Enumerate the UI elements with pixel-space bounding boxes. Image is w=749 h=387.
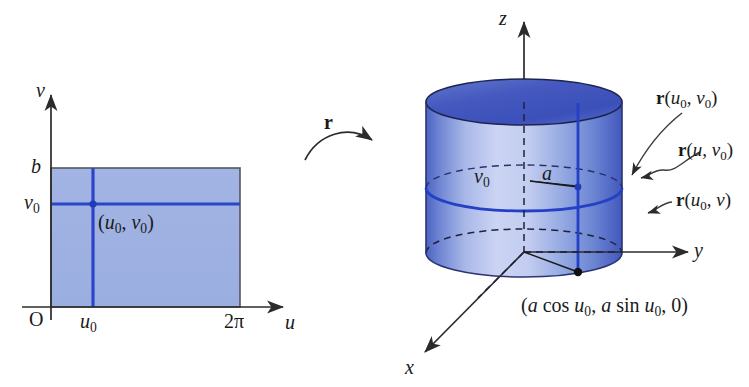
cylinder-height-label: v0 bbox=[474, 166, 490, 189]
y-axis-label: y bbox=[694, 240, 703, 260]
b-tick-label: b bbox=[31, 156, 41, 176]
callout-point-arg1: u bbox=[671, 87, 681, 108]
callout-point-arg2: v bbox=[696, 87, 704, 108]
origin-label: O bbox=[29, 309, 43, 329]
callout-leader-v-curve bbox=[648, 202, 672, 213]
two-pi-tick-label: 2π bbox=[224, 311, 244, 331]
bp-u2: u bbox=[644, 294, 654, 316]
callout-v-close: ) bbox=[725, 189, 731, 210]
uv-point-open: ( bbox=[98, 211, 105, 233]
u-axis-label: u bbox=[285, 312, 295, 332]
bp-open: ( bbox=[521, 294, 528, 316]
callout-label-point: r(u0, v0) bbox=[656, 88, 717, 111]
u0-tick-sub: 0 bbox=[90, 320, 97, 335]
bp-a1: a bbox=[528, 294, 538, 316]
uv-point-label: (u0, v0) bbox=[98, 212, 154, 235]
v0-tick-label: v0 bbox=[24, 192, 40, 215]
bp-u1: u bbox=[574, 294, 584, 316]
callout-point-close: ) bbox=[711, 87, 717, 108]
v0-tick-base: v bbox=[24, 191, 33, 213]
callout-point-comma: , bbox=[687, 87, 697, 108]
bp-a2: a bbox=[601, 294, 611, 316]
surface-point-marker bbox=[575, 184, 582, 191]
v-axis-label: v bbox=[36, 80, 45, 100]
uv-point-close: ) bbox=[147, 211, 154, 233]
callout-u-close: ) bbox=[727, 139, 733, 160]
mapping-arrow-graphics bbox=[305, 132, 372, 160]
callout-leader-point bbox=[632, 113, 682, 175]
cylinder-height-base: v bbox=[474, 165, 483, 187]
callout-v-arg2: v bbox=[716, 189, 724, 210]
u0-tick-label: u0 bbox=[80, 311, 97, 334]
bp-zero: 0 bbox=[671, 294, 681, 316]
cylinder-height-sub: 0 bbox=[483, 175, 490, 190]
callout-u-comma: , bbox=[702, 139, 712, 160]
x-axis-label: x bbox=[405, 357, 414, 377]
callout-u-arg1: u bbox=[693, 139, 703, 160]
bp-cos: cos bbox=[538, 294, 575, 316]
uv-domain-rectangle bbox=[51, 168, 240, 307]
r-mapping-label: r bbox=[324, 112, 333, 132]
figure-graphics bbox=[0, 0, 749, 387]
base-point-marker bbox=[574, 268, 582, 276]
v0-tick-sub: 0 bbox=[33, 201, 40, 216]
r-mapping-arrow bbox=[305, 132, 372, 160]
base-point-coordinate-label: (a cos u0, a sin u0, 0) bbox=[521, 295, 688, 318]
callout-label-u-curve: r(u, v0) bbox=[678, 140, 733, 163]
z-axis-label: z bbox=[499, 8, 507, 28]
callout-v-arg1: u bbox=[691, 189, 701, 210]
bp-sin: sin bbox=[611, 294, 644, 316]
radius-label-a: a bbox=[542, 163, 552, 183]
uv-plane-graphics bbox=[22, 95, 283, 320]
uv-point-marker bbox=[89, 200, 96, 207]
callout-v-comma: , bbox=[707, 189, 717, 210]
uv-point-comma: , bbox=[121, 211, 131, 233]
uv-point-u: u bbox=[105, 211, 115, 233]
u0-tick-base: u bbox=[80, 310, 90, 332]
bp-comma2: , bbox=[661, 294, 671, 316]
callout-u-arg2: v bbox=[712, 139, 720, 160]
callout-label-v-curve: r(u0, v) bbox=[676, 190, 731, 213]
bp-comma1: , bbox=[591, 294, 601, 316]
parametric-surface-figure: v u O b v0 u0 2π (u0, v0) r z y x v0 a r… bbox=[0, 0, 749, 387]
bp-close: ) bbox=[681, 294, 688, 316]
